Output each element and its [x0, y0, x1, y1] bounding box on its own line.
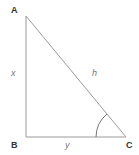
angle-c-arc — [96, 114, 107, 137]
triangle-diagram: A B C x y h — [0, 0, 139, 155]
vertex-b-label: B — [11, 140, 18, 150]
vertex-c-label: C — [126, 140, 133, 150]
side-bc-label: y — [64, 140, 70, 150]
side-ac-label: h — [92, 68, 97, 78]
vertex-a-label: A — [11, 5, 18, 15]
side-ab-label: x — [10, 68, 16, 78]
side-ac-hypotenuse — [26, 16, 126, 137]
